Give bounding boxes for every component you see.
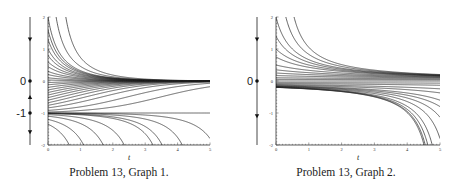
chart-graph-2: 012345-2-1012t0	[247, 15, 442, 165]
y-tick-label: -1	[269, 111, 273, 116]
y-tick-label: 2	[271, 15, 273, 20]
x-tick-label: 1	[308, 147, 310, 152]
solution-curve	[276, 87, 428, 164]
y-tick-label: -2	[269, 143, 273, 148]
y-tick-label: 1	[271, 47, 273, 52]
solution-curve	[66, 17, 210, 81]
equilibrium-dot	[28, 79, 32, 83]
y-tick-label: 0	[271, 79, 274, 84]
solution-curves	[48, 17, 210, 164]
x-tick-label: 2	[112, 147, 114, 152]
equilibrium-dot	[255, 79, 259, 83]
caption-graph-2: Problem 13, Graph 2.	[246, 166, 446, 178]
arrow-down-icon	[28, 37, 32, 41]
solution-curve	[276, 83, 440, 84]
x-axis-label: t	[357, 153, 360, 162]
y-tick-label: 2	[43, 15, 45, 20]
solution-curve	[276, 17, 440, 75]
phase-line: 0-1	[16, 17, 32, 145]
x-tick-label: 1	[79, 147, 81, 152]
solution-curve	[48, 113, 189, 164]
x-tick-label: 4	[176, 147, 179, 152]
x-tick-label: 5	[439, 147, 442, 152]
x-tick-label: 3	[373, 147, 376, 152]
y-tick-label: -1	[41, 111, 45, 116]
caption-graph-1: Problem 13, Graph 1.	[19, 166, 219, 178]
equilibrium-dot	[28, 111, 32, 115]
y-tick-label: -2	[41, 143, 45, 148]
solution-curve	[276, 86, 440, 106]
x-tick-label: 4	[406, 147, 409, 152]
arrow-down-icon	[28, 130, 32, 134]
solution-curve	[294, 17, 440, 75]
solution-curve	[48, 115, 131, 165]
equilibrium-label: -1	[16, 107, 26, 119]
solution-curve	[48, 39, 210, 80]
figure-canvas: 012345-2-1012t0-1012345-2-1012t0	[0, 0, 466, 188]
x-tick-label: 2	[340, 147, 342, 152]
solution-curve	[276, 87, 432, 164]
solution-curve	[276, 87, 429, 164]
solution-curves	[276, 17, 440, 164]
y-tick-label: 1	[43, 47, 45, 52]
arrow-down-icon	[255, 37, 259, 41]
phase-line: 0	[247, 17, 259, 145]
solution-curve	[48, 30, 210, 81]
arrow-up-icon	[28, 95, 32, 99]
solution-curve	[48, 113, 169, 164]
x-tick-label: 0	[275, 147, 278, 152]
equilibrium-label: 0	[247, 75, 253, 87]
solution-curve	[48, 119, 91, 164]
arrow-down-icon	[255, 114, 259, 118]
x-tick-label: 5	[209, 147, 212, 152]
equilibrium-label: 0	[20, 75, 26, 87]
x-tick-label: 0	[47, 147, 50, 152]
solution-curve	[276, 49, 440, 76]
x-axis-label: t	[128, 153, 131, 162]
solution-curve	[48, 49, 210, 81]
y-tick-label: 0	[43, 79, 46, 84]
solution-curve	[48, 114, 160, 165]
x-tick-label: 3	[144, 147, 147, 152]
solution-curve	[286, 17, 440, 75]
chart-graph-1: 012345-2-1012t0-1	[16, 15, 212, 165]
